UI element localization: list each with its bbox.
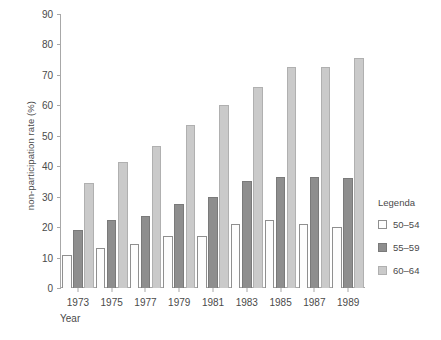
y-axis-tick-label: 70 — [0, 69, 60, 80]
legend-items: 50–5455–5960–64 — [378, 219, 441, 276]
x-axis-tick-label: 1979 — [168, 297, 190, 308]
bar — [62, 255, 72, 288]
bar — [73, 230, 83, 288]
x-axis-tick-mark — [246, 288, 247, 292]
bar — [107, 220, 117, 289]
x-axis-tick-label: 1977 — [134, 297, 156, 308]
bar — [219, 105, 229, 288]
bar — [118, 162, 128, 288]
bar-group: 1981 — [196, 14, 230, 288]
y-axis-tick-label: 40 — [0, 161, 60, 172]
bar-groups: 197319751977197919811983198519871989 — [61, 14, 365, 288]
bar — [152, 146, 162, 288]
bar — [343, 178, 353, 288]
bar-group: 1983 — [230, 14, 264, 288]
legend: Legenda 50–5455–5960–64 — [378, 197, 441, 288]
legend-label: 60–64 — [393, 265, 419, 276]
legend-swatch-icon — [378, 220, 387, 229]
bar — [231, 224, 241, 288]
legend-label: 50–54 — [393, 219, 419, 230]
bar — [287, 67, 297, 288]
y-axis-tick-label: 10 — [0, 252, 60, 263]
x-axis-tick-mark — [213, 288, 214, 292]
y-axis-tick-label: 20 — [0, 222, 60, 233]
legend-swatch-icon — [378, 266, 387, 275]
y-axis-tick-label: 90 — [0, 9, 60, 20]
bar — [321, 67, 331, 288]
x-axis-tick-mark — [111, 288, 112, 292]
x-axis-tick-label: 1973 — [67, 297, 89, 308]
bar-group: 1979 — [162, 14, 196, 288]
bar — [310, 177, 320, 288]
y-axis-tick-mark — [57, 288, 61, 289]
bar — [265, 220, 275, 289]
bar — [163, 236, 173, 288]
x-axis-tick-mark — [280, 288, 281, 292]
legend-item: 50–54 — [378, 219, 441, 230]
bar-group: 1989 — [331, 14, 365, 288]
x-axis-tick-mark — [145, 288, 146, 292]
x-axis-tick-mark — [348, 288, 349, 292]
x-axis-tick-label: 1985 — [269, 297, 291, 308]
bar — [253, 87, 263, 288]
bar — [276, 177, 286, 288]
bar-group: 1975 — [95, 14, 129, 288]
bar-group: 1973 — [61, 14, 95, 288]
bar — [186, 125, 196, 288]
bar — [299, 224, 309, 288]
bar — [141, 216, 151, 288]
y-axis-tick-label: 60 — [0, 100, 60, 111]
legend-label: 55–59 — [393, 242, 419, 253]
x-axis-tick-label: 1989 — [337, 297, 359, 308]
y-axis-tick-label: 30 — [0, 191, 60, 202]
x-axis-tick-label: 1981 — [202, 297, 224, 308]
legend-title: Legenda — [378, 197, 441, 208]
bar-group: 1985 — [264, 14, 298, 288]
bar — [354, 58, 364, 288]
bar-chart: non-participation rate (%) 0102030405060… — [0, 0, 441, 340]
x-axis-tick-mark — [179, 288, 180, 292]
bar — [130, 244, 140, 288]
bar-group: 1977 — [129, 14, 163, 288]
bar-group: 1987 — [297, 14, 331, 288]
legend-item: 60–64 — [378, 265, 441, 276]
bar — [197, 236, 207, 288]
x-axis-tick-label: 1975 — [101, 297, 123, 308]
bar — [84, 183, 94, 288]
x-axis-tick-label: 1983 — [236, 297, 258, 308]
bar — [96, 248, 106, 288]
x-axis-tick-mark — [314, 288, 315, 292]
y-axis-tick-label: 80 — [0, 39, 60, 50]
y-axis-tick-label: 0 — [0, 283, 60, 294]
y-axis-tick-label: 50 — [0, 130, 60, 141]
legend-item: 55–59 — [378, 242, 441, 253]
bar — [174, 204, 184, 288]
legend-swatch-icon — [378, 243, 387, 252]
bar — [242, 181, 252, 288]
bar — [208, 197, 218, 288]
x-axis-tick-mark — [77, 288, 78, 292]
bar — [332, 227, 342, 288]
plot-area: 0102030405060708090 19731975197719791981… — [60, 14, 365, 288]
x-axis-tick-label: 1987 — [303, 297, 325, 308]
x-axis-title: Year — [60, 313, 80, 324]
